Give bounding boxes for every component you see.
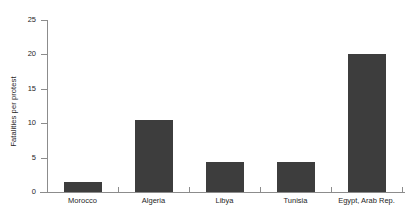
x-axis-separator-tick — [118, 187, 119, 193]
x-axis-separator-tick — [331, 187, 332, 193]
x-axis-separator-tick — [189, 187, 190, 193]
bar — [135, 120, 173, 192]
bar-chart: Fatalities per protest 0510152025 Morocc… — [0, 0, 412, 223]
x-axis-category-label: Algeria — [118, 196, 189, 205]
bars-layer — [47, 20, 402, 192]
x-axis-separator-tick — [260, 187, 261, 193]
bar — [348, 54, 386, 192]
y-axis-tick-label: 10 — [14, 119, 36, 127]
y-axis-tick-label: 5 — [14, 154, 36, 162]
x-axis-separator-tick — [402, 187, 403, 193]
y-axis-tick — [41, 192, 47, 193]
x-axis-line — [40, 192, 405, 193]
y-axis-tick-label: 25 — [14, 16, 36, 24]
y-axis-tick-label: 15 — [14, 85, 36, 93]
bar — [277, 162, 315, 192]
x-axis-category-label: Libya — [189, 196, 260, 205]
x-axis-category-label: Morocco — [47, 196, 118, 205]
y-axis-tick-label: 20 — [14, 50, 36, 58]
x-axis-category-label: Egypt, Arab Rep. — [331, 196, 402, 205]
y-axis-tick-label: 0 — [14, 188, 36, 196]
bar — [64, 182, 102, 192]
x-axis-category-label: Tunisia — [260, 196, 331, 205]
bar — [206, 162, 244, 192]
